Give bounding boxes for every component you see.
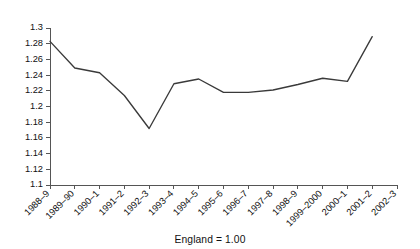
y-tick-label: 1.12: [25, 164, 43, 174]
chart-canvas: 1.31.281.261.241.221.21.181.161.141.121.…: [0, 0, 420, 249]
line-chart: 1.31.281.261.241.221.21.181.161.141.121.…: [0, 0, 420, 249]
chart-caption: England = 1.00: [0, 234, 420, 245]
y-tick-label: 1.28: [25, 38, 43, 48]
x-tick-label: 1993–4: [146, 188, 175, 217]
y-tick-label: 1.16: [25, 132, 43, 142]
x-tick-label: 1994–5: [171, 188, 200, 217]
series-line: [50, 37, 372, 129]
x-tick-label: 1995–6: [196, 188, 225, 217]
x-tick-label: 1996–7: [221, 188, 250, 217]
y-tick-label: 1.18: [25, 117, 43, 127]
y-tick-label: 1.3: [30, 22, 43, 32]
x-tick-label: 1990–1: [72, 188, 101, 217]
x-tick-label: 2000–1: [320, 188, 349, 217]
y-tick-label: 1.1: [30, 179, 43, 189]
x-tick-label: 2001–2: [345, 188, 374, 217]
x-tick-label: 1992–3: [122, 188, 151, 217]
y-tick-label: 1.14: [25, 148, 43, 158]
y-tick-label: 1.22: [25, 85, 43, 95]
x-tick-label: 2002–3: [369, 188, 398, 217]
y-tick-label: 1.2: [30, 101, 43, 111]
y-tick-label: 1.26: [25, 54, 43, 64]
y-tick-label: 1.24: [25, 70, 43, 80]
x-tick-label: 1997–8: [245, 188, 274, 217]
x-tick-label: 1991–2: [97, 188, 126, 217]
